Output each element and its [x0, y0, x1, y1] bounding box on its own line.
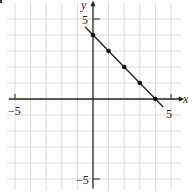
data-point: [153, 97, 158, 102]
data-point: [122, 65, 127, 70]
y-max-tick-label: 5: [82, 13, 88, 27]
corner-mark: [0, 0, 2, 3]
data-point: [106, 49, 111, 54]
coordinate-plane: y x −5 5 5 −5: [0, 0, 192, 193]
axes: [9, 1, 185, 189]
x-axis-label: x: [182, 92, 189, 106]
y-min-tick-label: −5: [76, 173, 89, 187]
data-point: [91, 33, 96, 38]
axis-labels: y x −5 5 5 −5: [8, 0, 189, 187]
y-axis-arrow-icon: [91, 1, 96, 7]
y-axis-label: y: [80, 0, 87, 12]
x-min-tick-label: −5: [8, 104, 21, 118]
grid-lines: [7, 3, 182, 190]
data-point: [138, 81, 143, 86]
x-max-tick-label: 5: [166, 107, 172, 121]
